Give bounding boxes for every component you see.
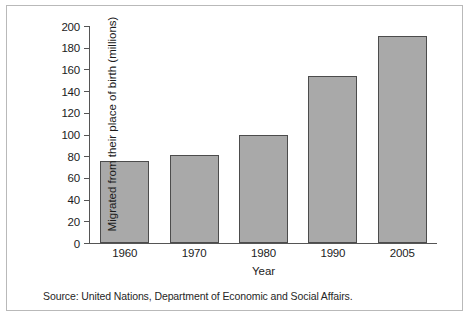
y-axis-tick: 100 bbox=[84, 135, 89, 136]
source-note: Source: United Nations, Department of Ec… bbox=[43, 290, 353, 302]
x-axis-tick-label: 1960 bbox=[90, 247, 159, 259]
y-axis-tick-label: 180 bbox=[61, 42, 80, 54]
x-axis-tick-labels: 19601970198019902005 bbox=[90, 247, 437, 259]
x-axis-tick-label: 1990 bbox=[298, 247, 367, 259]
chart-figure: 020406080100120140160180200 Migrated fro… bbox=[6, 5, 463, 311]
x-axis-title: Year bbox=[90, 265, 437, 277]
y-axis-tick-label: 20 bbox=[68, 216, 80, 228]
bar-slot bbox=[90, 26, 159, 243]
y-axis-tick: 0 bbox=[84, 243, 89, 244]
y-axis-tick: 140 bbox=[84, 91, 89, 92]
y-axis-tick: 80 bbox=[84, 156, 89, 157]
y-axis-tick-label: 120 bbox=[61, 107, 80, 119]
bar-slot bbox=[159, 26, 228, 243]
y-axis-tick: 60 bbox=[84, 178, 89, 179]
bar-series bbox=[90, 26, 437, 243]
y-axis-tick-label: 80 bbox=[68, 151, 80, 163]
y-axis-tick: 160 bbox=[84, 69, 89, 70]
y-axis-tick: 200 bbox=[84, 26, 89, 27]
y-axis-tick: 40 bbox=[84, 200, 89, 201]
x-axis-line bbox=[89, 243, 437, 244]
bar-1990 bbox=[308, 76, 357, 243]
bar-1980 bbox=[239, 135, 288, 244]
y-axis-tick: 20 bbox=[84, 221, 89, 222]
bar-1970 bbox=[170, 155, 219, 243]
y-axis-tick-label: 200 bbox=[61, 21, 80, 33]
bar-2005 bbox=[378, 36, 427, 243]
x-axis-tick-label: 1970 bbox=[159, 247, 228, 259]
y-axis-tick-label: 0 bbox=[74, 238, 80, 250]
x-axis-tick-label: 1980 bbox=[229, 247, 298, 259]
x-axis-tick-label: 2005 bbox=[368, 247, 437, 259]
y-axis-tick: 120 bbox=[84, 113, 89, 114]
y-axis-tick-label: 100 bbox=[61, 129, 80, 141]
y-axis-tick-label: 60 bbox=[68, 172, 80, 184]
y-axis-title: Migrated from their place of birth (mill… bbox=[106, 0, 118, 249]
bar-slot bbox=[368, 26, 437, 243]
bar-slot bbox=[229, 26, 298, 243]
plot-area: 020406080100120140160180200 Migrated fro… bbox=[89, 26, 437, 244]
y-axis-tick: 180 bbox=[84, 48, 89, 49]
y-axis-tick-label: 140 bbox=[61, 86, 80, 98]
y-axis-tick-label: 40 bbox=[68, 194, 80, 206]
bar-slot bbox=[298, 26, 367, 243]
y-axis-tick-label: 160 bbox=[61, 64, 80, 76]
